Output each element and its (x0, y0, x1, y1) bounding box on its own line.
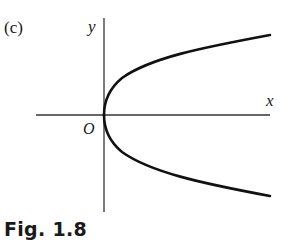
origin-label: O (83, 120, 95, 137)
y-axis-label: y (86, 17, 96, 36)
x-axis-label: x (265, 91, 274, 110)
panel-label: (c) (4, 18, 23, 37)
parabola-figure: (c) y x O (0, 0, 299, 246)
parabola-upper-branch (104, 35, 270, 115)
parabola-lower-branch (104, 115, 270, 196)
figure-caption: Fig. 1.8 (4, 218, 87, 240)
